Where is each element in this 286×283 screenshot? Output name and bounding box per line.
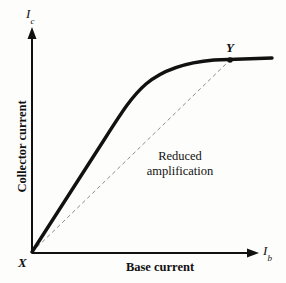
annotation-line-1: Reduced xyxy=(128,149,232,164)
y-axis-caption: Collector current xyxy=(15,67,30,227)
x-axis-symbol-main: I xyxy=(263,243,268,258)
y-axis-symbol-subscript: c xyxy=(31,16,35,26)
chart-canvas xyxy=(0,0,286,283)
y-axis-symbol-main: I xyxy=(26,6,31,21)
annotation-line-2: amplification xyxy=(128,164,232,179)
x-axis xyxy=(32,249,259,258)
knee-point-label: Y xyxy=(226,40,234,56)
point-y-marker xyxy=(227,57,233,63)
x-axis-symbol-subscript: b xyxy=(268,253,273,263)
x-axis-symbol: Ib xyxy=(263,243,272,261)
x-axis-caption: Base current xyxy=(72,260,248,275)
y-axis-symbol: Ic xyxy=(26,6,35,24)
transistor-transfer-characteristic-figure: Ic Ib X Y Collector current Base current… xyxy=(0,0,286,283)
origin-point-label: X xyxy=(18,255,27,271)
reduced-amplification-annotation: Reduced amplification xyxy=(128,149,232,179)
